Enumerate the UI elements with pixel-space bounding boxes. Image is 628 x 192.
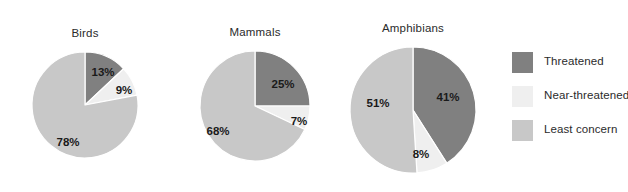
legend-swatch-icon: [512, 52, 533, 73]
slice-value-label: 25%: [271, 78, 294, 90]
slice-value-label: 41%: [436, 91, 459, 103]
pie-slice-least-concern: [350, 47, 417, 173]
slice-value-label: 78%: [56, 136, 79, 148]
pie-birds: 13%9%78%: [14, 34, 156, 176]
legend-label: Least concern: [544, 123, 618, 135]
slice-value-label: 9%: [116, 84, 133, 96]
slice-value-label: 51%: [366, 97, 389, 109]
slice-value-label: 13%: [91, 66, 114, 78]
slice-value-label: 8%: [413, 148, 430, 160]
legend-swatch-icon: [512, 120, 533, 141]
legend-label: Near-threatened: [544, 89, 628, 101]
slice-value-label: 7%: [291, 115, 308, 127]
slice-value-label: 68%: [206, 125, 229, 137]
pie-amphibians: 41%8%51%: [332, 29, 494, 191]
legend-swatch-icon: [512, 86, 533, 107]
pie-chart-figure: Birds13%9%78%Mammals25%7%68%Amphibians41…: [0, 0, 628, 192]
legend-label: Threatened: [544, 55, 604, 67]
pie-mammals: 25%7%68%: [182, 33, 328, 179]
